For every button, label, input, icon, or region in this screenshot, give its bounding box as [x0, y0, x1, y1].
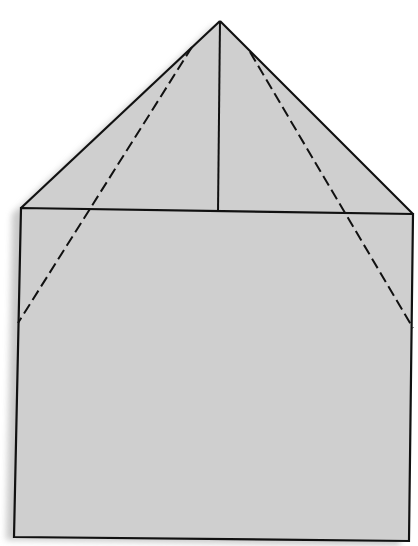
- figure-fill: [14, 21, 413, 541]
- house-diagram: [0, 0, 418, 546]
